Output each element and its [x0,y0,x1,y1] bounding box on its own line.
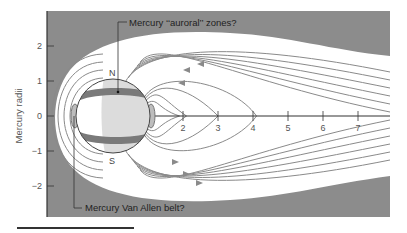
auroral-zones-label: Mercury ‘‘auroral’’ zones? [129,17,237,28]
y-axis-label: Mercury radii [13,89,24,144]
van-allen-belt-label: Mercury Van Allen belt? [85,202,185,213]
x-tick-label: 2 [180,123,185,133]
south-pole-label: S [109,156,115,166]
y-tick-label: 1 [37,76,42,86]
y-tick-label: −1 [32,146,42,156]
x-tick-label: 6 [320,123,325,133]
north-pole-label: N [109,68,116,78]
mercury-magnetosphere-diagram: 234567 210−1−2 N S Mercury ‘‘auroral’’ z… [0,0,407,233]
x-tick-label: 4 [250,123,255,133]
auroral-leader-dot [117,91,120,94]
y-tick-label: −2 [32,181,42,191]
x-tick-label: 3 [215,123,220,133]
x-tick-label: 5 [285,123,290,133]
x-tick-label: 7 [355,123,360,133]
y-tick-label: 0 [37,111,42,121]
y-tick-label: 2 [37,41,42,51]
